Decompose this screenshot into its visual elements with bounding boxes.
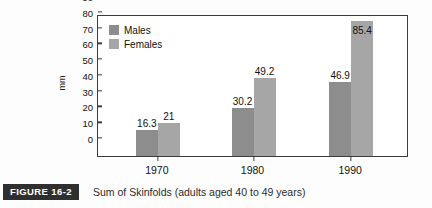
legend-item-females: Females bbox=[109, 38, 162, 50]
y-tick-mark bbox=[98, 122, 102, 123]
y-tick-30: 30 bbox=[82, 82, 98, 100]
y-tick-10: 10 bbox=[82, 113, 98, 131]
x-tick-1990 bbox=[351, 156, 352, 161]
bar-value-label: 85.4 bbox=[352, 25, 371, 36]
y-tick-label: 90 bbox=[82, 0, 98, 3]
y-tick-20: 20 bbox=[82, 97, 98, 115]
legend-item-males: Males bbox=[109, 24, 162, 36]
plot-area: Males Females 0102030405060708090 16.321… bbox=[98, 16, 407, 156]
y-tick-mark bbox=[98, 106, 102, 107]
y-tick-label: 10 bbox=[82, 118, 98, 129]
figure-caption-text: Sum of Skinfolds (adults aged 40 to 49 y… bbox=[93, 186, 305, 198]
bar-value-label: 49.2 bbox=[255, 66, 274, 77]
x-axis-label-1970: 1970 bbox=[145, 164, 168, 176]
x-axis-label-1990: 1990 bbox=[338, 164, 361, 176]
y-tick-mark bbox=[98, 58, 102, 59]
y-tick-80: 80 bbox=[82, 3, 98, 21]
y-tick-label: 20 bbox=[82, 102, 98, 113]
x-tick-1980 bbox=[253, 156, 254, 161]
y-tick-label: 60 bbox=[82, 39, 98, 50]
y-tick-mark bbox=[98, 90, 102, 91]
y-tick-label: 0 bbox=[88, 134, 98, 145]
y-tick-0: 0 bbox=[88, 129, 98, 147]
figure-number-badge: FIGURE 16-2 bbox=[3, 184, 79, 200]
legend-swatch-females bbox=[109, 39, 119, 49]
bar-females-1990: 85.4 bbox=[351, 21, 373, 156]
y-tick-50: 50 bbox=[82, 50, 98, 68]
legend-label-males: Males bbox=[124, 25, 151, 36]
y-tick-label: 80 bbox=[82, 8, 98, 19]
y-axis-label: mm bbox=[57, 71, 67, 95]
figure-caption: FIGURE 16-2 Sum of Skinfolds (adults age… bbox=[0, 181, 432, 203]
x-tick-1970 bbox=[157, 156, 158, 161]
y-tick-70: 70 bbox=[82, 19, 98, 37]
legend-swatch-males bbox=[109, 25, 119, 35]
y-tick-mark bbox=[98, 27, 102, 28]
x-axis-label-1980: 1980 bbox=[241, 164, 264, 176]
bar-females-1970: 21 bbox=[158, 123, 180, 156]
bar-females-1980: 49.2 bbox=[254, 78, 276, 156]
legend-label-females: Females bbox=[124, 39, 162, 50]
y-tick-mark bbox=[98, 74, 102, 75]
figure-page: mm Males Females 0102030405060708090 16.… bbox=[0, 0, 432, 208]
legend: Males Females bbox=[109, 24, 162, 52]
y-tick-mark bbox=[98, 43, 102, 44]
y-tick-60: 60 bbox=[82, 34, 98, 52]
y-tick-mark bbox=[98, 137, 102, 138]
bar-males-1970: 16.3 bbox=[136, 130, 158, 156]
y-tick-label: 70 bbox=[82, 24, 98, 35]
bar-males-1980: 30.2 bbox=[232, 108, 254, 156]
y-tick-label: 30 bbox=[82, 87, 98, 98]
y-tick-mark bbox=[98, 11, 102, 12]
bar-value-label: 16.3 bbox=[137, 118, 156, 129]
y-tick-40: 40 bbox=[82, 66, 98, 84]
bar-males-1990: 46.9 bbox=[329, 82, 351, 156]
bar-value-label: 21 bbox=[163, 111, 174, 122]
plot-frame: Males Females 0102030405060708090 16.321… bbox=[97, 15, 408, 157]
bar-value-label: 30.2 bbox=[233, 96, 252, 107]
y-tick-label: 40 bbox=[82, 71, 98, 82]
y-tick-90: 90 bbox=[82, 0, 98, 5]
y-tick-label: 50 bbox=[82, 55, 98, 66]
bar-chart: mm Males Females 0102030405060708090 16.… bbox=[0, 0, 432, 178]
bar-value-label: 46.9 bbox=[330, 70, 349, 81]
